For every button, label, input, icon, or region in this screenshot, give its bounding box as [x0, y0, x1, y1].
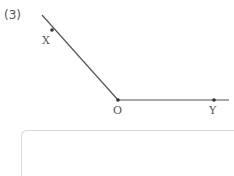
ray-ox: [42, 15, 118, 100]
point-y-dot: [212, 98, 216, 102]
point-o-dot: [116, 98, 120, 102]
point-o-label: O: [113, 104, 122, 117]
answer-box[interactable]: [21, 130, 234, 176]
point-x-dot: [50, 28, 54, 32]
point-y-label: Y: [209, 104, 216, 117]
point-x-label: X: [42, 34, 50, 47]
